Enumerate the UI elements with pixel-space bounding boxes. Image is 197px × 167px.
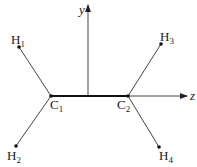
label-h2: H2 (7, 148, 21, 165)
bond-c2-h3 (128, 44, 161, 96)
label-h4: H4 (159, 148, 173, 165)
atom-dot-c2 (126, 94, 130, 98)
label-h3: H3 (160, 29, 174, 46)
y-axis: y (77, 2, 88, 96)
z-axis: z (128, 88, 195, 103)
z-axis-label: z (189, 88, 195, 103)
ethylene-coordinate-diagram: y z H1 H2 H3 H4 C1 C2 (0, 0, 197, 167)
label-c2: C2 (117, 97, 130, 114)
label-c1: C1 (50, 97, 63, 114)
label-h1: H1 (11, 32, 25, 49)
bond-c2-h4 (128, 96, 159, 147)
bond-c1-h2 (16, 96, 51, 146)
y-axis-label: y (77, 2, 85, 17)
bond-c1-h1 (19, 47, 51, 96)
